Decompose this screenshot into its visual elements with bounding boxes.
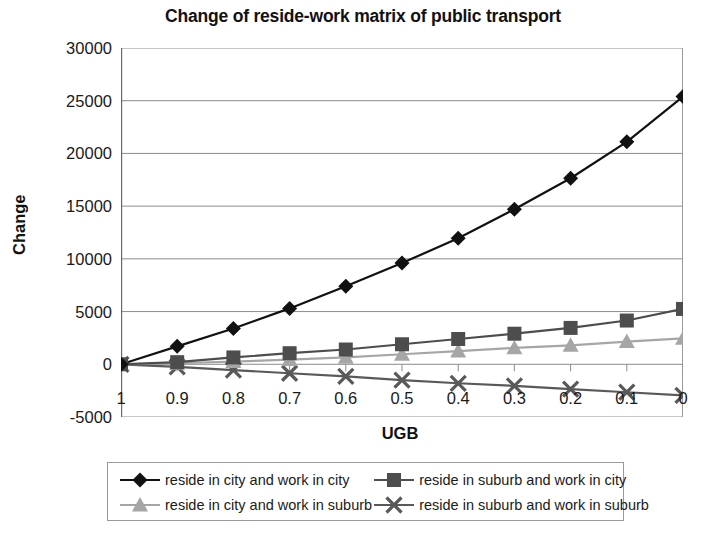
y-axis-tick-label: -5000 xyxy=(26,409,112,426)
y-axis-tick-labels: 300002500020000150001000050000-5000 xyxy=(26,0,112,535)
y-axis-tick-label: 30000 xyxy=(26,40,112,57)
x-axis-tick-label: 0.3 xyxy=(503,390,526,407)
x-axis-tick-label: 0.2 xyxy=(559,390,582,407)
legend-marker-diamond-icon xyxy=(118,471,162,489)
data-point-diamond xyxy=(133,472,148,487)
x-axis-tick-label: 0.6 xyxy=(334,390,357,407)
legend-marker-square-icon xyxy=(372,471,416,489)
data-point-diamond xyxy=(170,339,185,354)
legend-label: reside in city and work in suburb xyxy=(165,497,372,513)
data-point-square xyxy=(283,346,297,360)
y-axis-tick-label: 15000 xyxy=(26,198,112,215)
data-point-square xyxy=(451,332,465,346)
data-point-diamond xyxy=(338,279,353,294)
x-axis-tick-label: 0.5 xyxy=(391,390,414,407)
y-axis-tick-label: 5000 xyxy=(26,303,112,320)
legend-marker-triangle-icon xyxy=(118,496,162,514)
data-point-diamond xyxy=(451,231,466,246)
legend-item[interactable]: reside in suburb and work in city xyxy=(372,471,649,489)
legend-label: reside in suburb and work in suburb xyxy=(419,497,649,513)
data-point-square xyxy=(339,343,353,357)
x-axis-tick-label: 0.7 xyxy=(278,390,301,407)
chart-container: Change of reside-work matrix of public t… xyxy=(0,0,726,535)
x-axis-tick-label: 0 xyxy=(678,390,687,407)
legend-item[interactable]: reside in suburb and work in suburb xyxy=(372,496,649,514)
y-axis-tick-label: 25000 xyxy=(26,92,112,109)
x-axis-tick-label: 0.4 xyxy=(447,390,470,407)
plot-svg xyxy=(121,48,683,417)
x-axis-tick-label: 0.9 xyxy=(166,390,189,407)
legend-label: reside in suburb and work in city xyxy=(419,472,626,488)
legend-item[interactable]: reside in city and work in suburb xyxy=(118,496,372,514)
data-point-square xyxy=(387,473,401,487)
x-axis-tick-label: 0.8 xyxy=(222,390,245,407)
data-point-diamond xyxy=(507,202,522,217)
legend-marker-cross-icon xyxy=(372,496,416,514)
data-point-square xyxy=(395,337,409,351)
plot-area xyxy=(121,48,683,417)
data-point-square xyxy=(170,355,184,369)
data-point-square xyxy=(564,321,578,335)
chart-legend: reside in city and work in cityreside in… xyxy=(107,462,624,521)
data-point-square xyxy=(507,327,521,341)
y-axis-tick-label: 20000 xyxy=(26,145,112,162)
y-axis-tick-label: 0 xyxy=(26,356,112,373)
x-axis-title: UGB xyxy=(120,424,680,443)
data-point-diamond xyxy=(226,321,241,336)
x-axis-tick-label: 0.1 xyxy=(615,390,638,407)
x-axis-tick-label: 1 xyxy=(116,390,125,407)
data-point-diamond xyxy=(563,171,578,186)
data-point-diamond xyxy=(395,256,410,271)
legend-label: reside in city and work in city xyxy=(165,472,350,488)
legend-item[interactable]: reside in city and work in city xyxy=(118,471,372,489)
data-point-square xyxy=(620,314,634,328)
data-point-diamond xyxy=(282,301,297,316)
data-point-square xyxy=(226,350,240,364)
y-axis-tick-label: 10000 xyxy=(26,251,112,268)
data-point-square xyxy=(676,302,683,316)
